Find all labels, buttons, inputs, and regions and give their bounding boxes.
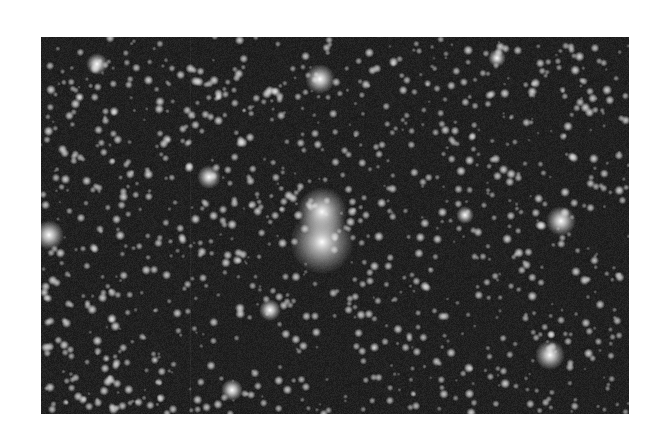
star-field-image: Grayscale telescope image of a dense sta… — [41, 37, 629, 414]
star-field-canvas — [41, 37, 629, 414]
